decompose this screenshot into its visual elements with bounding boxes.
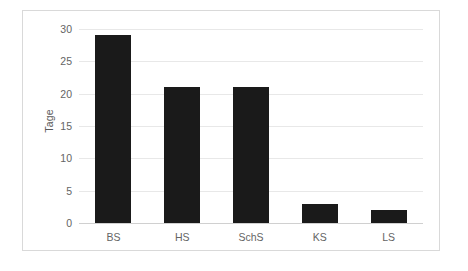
bar[interactable] <box>95 35 131 223</box>
x-tick-label: KS <box>313 231 327 243</box>
x-tick-label: HS <box>175 231 190 243</box>
plot-area: 051015202530BSHSSchSKSLS <box>79 29 423 223</box>
x-tick-label: LS <box>382 231 395 243</box>
bar[interactable] <box>371 210 407 223</box>
chart-frame: Tage 051015202530BSHSSchSKSLS <box>22 10 440 251</box>
x-tick-label: BS <box>106 231 120 243</box>
y-tick-label: 30 <box>60 23 72 35</box>
bar-group: HS <box>148 29 217 223</box>
y-tick-label: 25 <box>60 55 72 67</box>
y-tick-label: 20 <box>60 88 72 100</box>
y-tick-label: 5 <box>66 185 72 197</box>
x-tick-label: SchS <box>238 231 263 243</box>
bar[interactable] <box>302 204 338 223</box>
bar[interactable] <box>164 87 200 223</box>
figure: Tage 051015202530BSHSSchSKSLS <box>0 0 468 271</box>
y-axis-title: Tage <box>43 91 55 151</box>
bar[interactable] <box>233 87 269 223</box>
bar-group: SchS <box>217 29 286 223</box>
y-tick-label: 15 <box>60 120 72 132</box>
y-tick-label: 10 <box>60 152 72 164</box>
gridline-0: 0 <box>79 223 423 224</box>
bar-group: LS <box>354 29 423 223</box>
bar-group: BS <box>79 29 148 223</box>
bar-group: KS <box>285 29 354 223</box>
y-tick-label: 0 <box>66 217 72 229</box>
